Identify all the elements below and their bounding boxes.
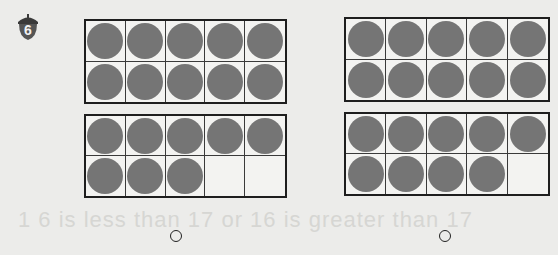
ten-frame-cell — [467, 19, 507, 60]
ten-frame-cell — [126, 62, 166, 103]
ten-frame-cell — [166, 116, 206, 156]
ten-frame-cell — [86, 62, 126, 103]
bleed-through-text: 1 6 is less than 17 or 16 is greater tha… — [18, 207, 473, 233]
counter-dot — [469, 156, 505, 192]
ten-frame-cell — [386, 19, 426, 60]
counter-dot — [87, 118, 123, 154]
problem-number-badge: 6 — [15, 13, 41, 41]
counter-dot — [247, 118, 283, 154]
counter-dot — [207, 23, 243, 59]
counter-dot — [207, 64, 243, 100]
counter-dot — [510, 21, 546, 57]
counter-dot — [428, 62, 464, 98]
ten-frame-cell — [427, 154, 467, 194]
ten-frame-cell — [86, 21, 126, 62]
ten-frame-left-top — [84, 19, 287, 104]
ten-frame-cell — [386, 60, 426, 101]
counter-dot — [510, 116, 546, 152]
ten-frame-cell — [427, 114, 467, 154]
counter-dot — [469, 62, 505, 98]
ten-frame-cell — [508, 154, 548, 194]
ten-frame-cell — [427, 19, 467, 60]
ten-frame-cell — [86, 116, 126, 156]
counter-dot — [469, 21, 505, 57]
ten-frame-cell — [467, 154, 507, 194]
counter-dot — [247, 23, 283, 59]
ten-frame-cell — [166, 62, 206, 103]
counter-dot — [167, 158, 203, 194]
ten-frame-left-bottom — [84, 114, 287, 198]
ten-frame-cell — [205, 116, 245, 156]
counter-dot — [348, 116, 384, 152]
ten-frame-cell — [245, 21, 285, 62]
counter-dot — [428, 21, 464, 57]
counter-dot — [428, 156, 464, 192]
counter-dot — [510, 62, 546, 98]
ten-frame-cell — [386, 114, 426, 154]
counter-dot — [127, 23, 163, 59]
ten-frame-cell — [205, 21, 245, 62]
counter-dot — [469, 116, 505, 152]
counter-dot — [207, 118, 243, 154]
ten-frame-right-bottom — [344, 112, 550, 196]
ten-frame-cell — [205, 62, 245, 103]
answer-radio-right[interactable] — [439, 230, 451, 242]
counter-dot — [348, 156, 384, 192]
ten-frame-cell — [245, 116, 285, 156]
counter-dot — [87, 23, 123, 59]
ten-frame-cell — [166, 21, 206, 62]
ten-frame-cell — [467, 114, 507, 154]
counter-dot — [167, 118, 203, 154]
counter-dot — [167, 23, 203, 59]
ten-frame-cell — [346, 19, 386, 60]
counter-dot — [87, 158, 123, 194]
ten-frame-cell — [508, 60, 548, 101]
answer-radio-left[interactable] — [170, 230, 182, 242]
ten-frame-cell — [427, 60, 467, 101]
ten-frame-cell — [508, 19, 548, 60]
ten-frame-right-top — [344, 17, 550, 102]
counter-dot — [87, 64, 123, 100]
ten-frame-cell — [346, 154, 386, 194]
ten-frame-cell — [205, 156, 245, 196]
problem-number: 6 — [15, 22, 41, 38]
counter-dot — [127, 158, 163, 194]
counter-dot — [388, 156, 424, 192]
ten-frame-cell — [126, 21, 166, 62]
counter-dot — [388, 116, 424, 152]
counter-dot — [127, 64, 163, 100]
ten-frame-cell — [386, 154, 426, 194]
counter-dot — [247, 64, 283, 100]
ten-frame-cell — [166, 156, 206, 196]
ten-frame-cell — [86, 156, 126, 196]
counter-dot — [127, 118, 163, 154]
counter-dot — [348, 62, 384, 98]
ten-frame-cell — [346, 114, 386, 154]
counter-dot — [388, 21, 424, 57]
ten-frame-cell — [126, 156, 166, 196]
counter-dot — [348, 21, 384, 57]
ten-frame-cell — [346, 60, 386, 101]
ten-frame-cell — [245, 156, 285, 196]
ten-frame-cell — [245, 62, 285, 103]
ten-frame-cell — [467, 60, 507, 101]
counter-dot — [428, 116, 464, 152]
ten-frame-cell — [126, 116, 166, 156]
counter-dot — [167, 64, 203, 100]
ten-frame-cell — [508, 114, 548, 154]
counter-dot — [388, 62, 424, 98]
